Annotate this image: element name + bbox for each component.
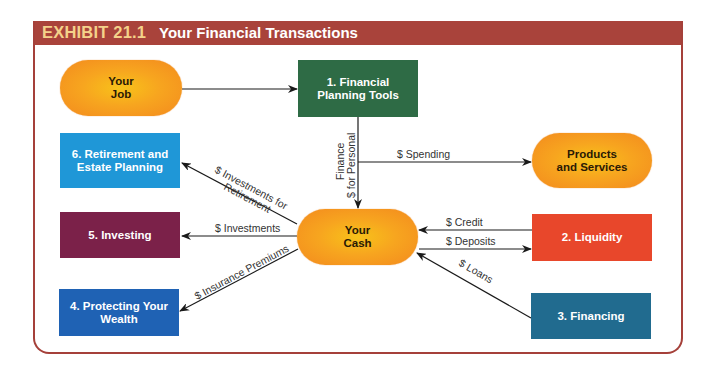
node-products-line2: and Services [557,161,628,174]
node-your-job-line2: Job [108,88,133,101]
node-products-line1: Products [557,148,628,161]
node-liquidity-label: 2. Liquidity [562,231,623,244]
node-financial-planning-line1: 1. Financial [317,76,399,89]
label-credit: $ Credit [446,216,483,228]
node-financing: 3. Financing [531,293,651,339]
label-investments: $ Investments [215,222,280,234]
label-spending: $ Spending [397,148,450,160]
label-loans: $ Loans [457,256,495,285]
node-your-cash-line2: Cash [343,237,371,250]
node-protecting-line1: 4. Protecting Your [70,300,168,313]
node-your-job-line1: Your [108,75,133,88]
node-protecting-wealth: 4. Protecting YourWealth [59,289,179,336]
label-insurance: $ Insurance Premiums [192,242,290,302]
node-your-job: YourJob [60,60,182,116]
label-deposits: $ Deposits [446,235,496,247]
node-retirement-line1: 6. Retirement and [72,148,169,161]
node-investing-label: 5. Investing [88,229,151,242]
node-liquidity: 2. Liquidity [532,214,652,261]
node-investing: 5. Investing [60,212,180,258]
node-protecting-line2: Wealth [70,313,168,326]
node-financial-planning-tools: 1. FinancialPlanning Tools [298,60,418,117]
node-your-cash: YourCash [297,209,418,265]
node-products-services: Productsand Services [532,133,652,188]
node-your-cash-line1: Your [343,224,371,237]
label-personal-finance-2: Finance [334,142,346,180]
node-financing-label: 3. Financing [557,310,624,323]
label-personal-finance-1: $ for Personal [345,133,357,198]
node-retirement-line2: Estate Planning [72,161,169,174]
node-financial-planning-line2: Planning Tools [317,89,399,102]
node-retirement-estate-planning: 6. Retirement andEstate Planning [60,133,180,188]
